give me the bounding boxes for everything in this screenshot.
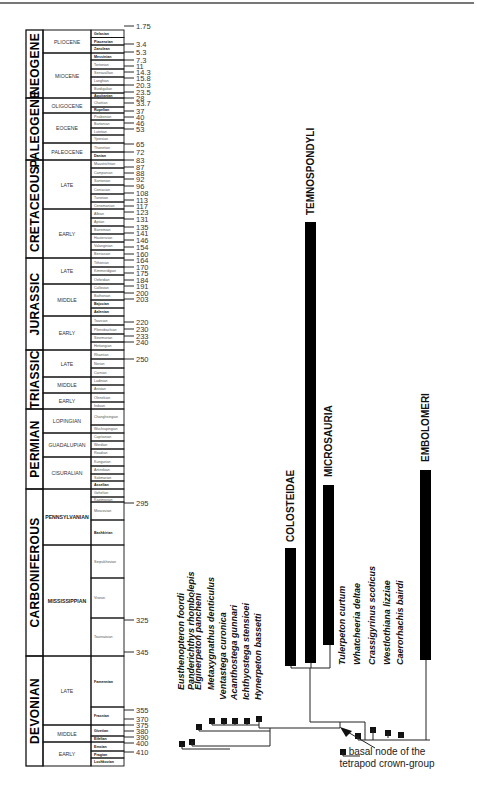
stage-label: Aptian	[94, 220, 104, 224]
series-label: MIDDLE	[57, 382, 77, 388]
stage-label: Wuchiapingian	[94, 427, 118, 431]
series-label: EARLY	[59, 231, 76, 237]
stage-label: Eifelian	[94, 737, 107, 741]
stage-label: Asselian	[94, 483, 109, 487]
stage-label: Sakmarian	[94, 476, 111, 480]
stage-label: Givetian	[94, 729, 108, 733]
stage-label: Famennian	[94, 680, 113, 684]
stage-label: Berriasian	[94, 252, 110, 256]
stage-label: Kimmeridgian	[94, 269, 116, 273]
system-label: NEOGENE	[28, 33, 42, 95]
clade-label: EMBOLOMERI	[420, 393, 431, 462]
stage-label: Moscovian	[94, 509, 111, 513]
stage-label: Thanetian	[94, 146, 110, 150]
stage-label: Danian	[94, 154, 106, 158]
series-label: LATE	[61, 182, 74, 188]
clade-range-bar	[323, 485, 334, 645]
age-label: 325	[136, 616, 149, 625]
system-label: DEVONIAN	[28, 678, 42, 744]
system-label: CARBONIFEROUS	[28, 518, 42, 628]
stage-label: Albian	[94, 212, 104, 216]
stage-label: Barremian	[94, 228, 111, 232]
age-label: 1.75	[136, 22, 151, 31]
annotation-line-1: basal node of the	[349, 746, 426, 757]
stage-label: Bathonian	[94, 294, 110, 298]
taxon-label: Westlothiana lizziae	[382, 580, 392, 665]
age-label: 53	[136, 125, 144, 134]
stage-label: Hettangian	[94, 344, 111, 348]
stage-label: Ladinian	[94, 379, 108, 383]
stage-label: Aalenian	[94, 310, 109, 314]
stage-label: Serpukhovian	[94, 560, 116, 564]
stage-label: Pliensbachian	[94, 328, 116, 332]
stage-label: Zanclean	[94, 47, 110, 51]
system-label: PALEOGENE	[28, 90, 42, 167]
age-label: 250	[136, 355, 149, 364]
stage-label: Induan	[94, 404, 105, 408]
stage-label: Rupelian	[94, 108, 109, 112]
stage-label: Maastrichtian	[94, 162, 115, 166]
series-label: MIDDLE	[57, 731, 77, 737]
stage-label: Bajocian	[94, 302, 109, 306]
stage-label: Campanian	[94, 171, 112, 175]
series-label: EOCENE	[56, 125, 78, 131]
series-label: EARLY	[59, 751, 76, 757]
arrow-icon	[340, 727, 352, 737]
clade-range-bar	[285, 548, 296, 666]
stage-label: Capitanian	[94, 435, 111, 439]
taxon-label: Whatcheeria deltae	[352, 583, 362, 665]
stage-label: Aquitanian	[94, 94, 113, 98]
series-label: MISSISSIPPIAN	[48, 598, 87, 604]
clade-range-bar	[420, 470, 431, 660]
age-label: 345	[136, 648, 149, 657]
age-label: 410	[136, 748, 149, 757]
series-label: LATE	[61, 361, 74, 367]
stage-label: Norian	[94, 362, 105, 366]
stage-label: Gelasian	[94, 32, 109, 36]
stage-label: Kungurian	[94, 460, 110, 464]
stage-label: Kazimovian	[94, 498, 113, 502]
stage-label: Emsian	[94, 745, 107, 749]
taxon-label: Elginerpeton pancheni	[193, 592, 203, 690]
stage-label: Lutetian	[94, 130, 107, 134]
stage-label: Tithonian	[94, 261, 109, 265]
stage-label: Gzhelian	[94, 491, 108, 495]
taxon-label: Eusthenopteron foordi	[176, 593, 186, 690]
stage-label: Tournaisian	[94, 635, 112, 639]
stage-label: Priabonian	[94, 115, 111, 119]
age-label: 355	[136, 706, 149, 715]
stage-label: Hauterivian	[94, 236, 112, 240]
stage-label: Langhian	[94, 79, 109, 83]
age-label: 400	[136, 739, 149, 748]
taxon-label: Hynerpeton bassetti	[253, 613, 263, 700]
stage-label: Sinemurian	[94, 336, 112, 340]
stage-label: Toarcian	[94, 319, 108, 323]
stage-label: Roadian	[94, 451, 107, 455]
clade-range-bar	[305, 222, 316, 663]
stage-label: Coniacian	[94, 188, 110, 192]
series-label: LATE	[61, 268, 74, 274]
series-label: EARLY	[59, 398, 76, 404]
stage-label: Serravallian	[94, 71, 113, 75]
stage-label: Pragian	[94, 753, 107, 757]
age-scale: 1.753.45.37.31114.315.820.323.52833.7374…	[124, 22, 151, 757]
taxon-label: Metaxygnathus denticulus	[206, 577, 216, 690]
taxon-label: Crassigyrinus scoticus	[367, 566, 377, 665]
system-label: JURASSIC	[28, 272, 42, 335]
stage-label: Visean	[94, 596, 105, 600]
stage-label: Bartonian	[94, 122, 109, 126]
stage-label: Wordian	[94, 443, 107, 447]
figure-canvas: GelasianPiacenzianZancleanPLIOCENEMessin…	[0, 0, 477, 790]
stage-label: Oxfordian	[94, 278, 110, 282]
clade-label: MICROSAURIA	[323, 405, 334, 477]
series-label: CISURALIAN	[51, 470, 82, 476]
age-label: 240	[136, 338, 149, 347]
stage-label: Rhaetian	[94, 353, 108, 357]
taxon-label: Tulerpeton curtum	[337, 586, 347, 665]
stage-label: Changhsingian	[94, 415, 118, 419]
stage-label: Ypresian	[94, 137, 108, 141]
series-label: GUADALUPIAN	[48, 442, 85, 448]
taxon-label: Caerorhachis bairdi	[395, 580, 405, 665]
stage-label: Cenomanian	[94, 204, 114, 208]
series-label: PALEOCENE	[51, 149, 83, 155]
